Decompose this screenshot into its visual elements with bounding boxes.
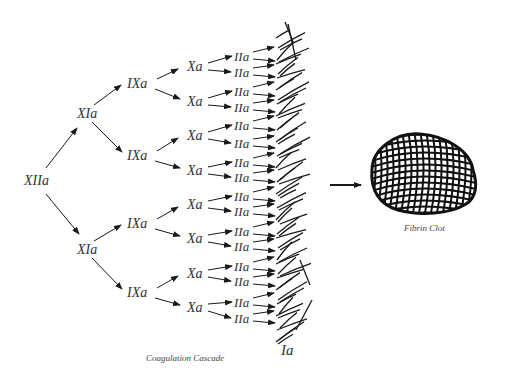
activation-arrow — [253, 249, 275, 251]
activation-arrow — [155, 89, 180, 99]
activation-arrow — [253, 136, 274, 139]
factor-xa-label: Xa — [187, 301, 203, 315]
activation-arrow — [253, 128, 275, 130]
activation-arrow — [253, 47, 274, 52]
factor-xiia-label: XIIa — [24, 174, 49, 188]
cascade-arrows — [0, 0, 506, 381]
activation-arrow — [253, 100, 274, 103]
activation-arrow — [253, 165, 275, 167]
activation-arrow — [208, 302, 232, 304]
factor-xia-label: XIa — [77, 243, 97, 257]
factor-xa-label: Xa — [187, 95, 203, 109]
factor-xa-label: Xa — [187, 60, 203, 74]
activation-arrow — [155, 161, 180, 168]
activation-arrow — [208, 162, 232, 167]
activation-arrow — [253, 234, 275, 236]
factor-iia-label: IIa — [234, 156, 249, 170]
factor-iia-label: IIa — [234, 240, 249, 254]
activation-arrow — [94, 85, 121, 105]
factor-xa-label: Xa — [187, 232, 203, 246]
activation-arrow — [253, 311, 274, 314]
activation-arrow — [253, 82, 274, 87]
activation-arrow — [208, 208, 231, 211]
activation-arrow — [208, 277, 231, 281]
activation-arrow — [208, 242, 231, 246]
fibrin-clot-icon — [368, 130, 480, 222]
factor-xa-label: Xa — [187, 164, 203, 178]
activation-arrow — [253, 274, 274, 277]
activation-arrow — [208, 56, 232, 63]
activation-arrow — [253, 180, 275, 182]
activation-arrow — [253, 269, 275, 271]
activation-arrow — [92, 258, 122, 289]
activation-arrow — [94, 225, 121, 241]
activation-arrow — [208, 174, 231, 177]
factor-iia-label: IIa — [234, 275, 249, 289]
activation-arrow — [208, 125, 232, 132]
factor-ixa-label: IXa — [127, 149, 147, 163]
factor-xia-label: XIa — [77, 107, 97, 121]
activation-arrow — [157, 69, 178, 79]
activation-arrow — [208, 196, 232, 201]
activation-arrow — [253, 116, 274, 121]
activation-arrow — [208, 231, 232, 235]
factor-iia-label: IIa — [234, 296, 249, 310]
factor-iia-label: IIa — [234, 101, 249, 115]
fibrin-clot-label: Fibrin Clot — [404, 223, 445, 233]
activation-arrow — [208, 91, 232, 98]
activation-arrow — [253, 214, 275, 216]
activation-arrow — [253, 284, 275, 286]
activation-arrow — [157, 276, 178, 288]
activation-arrow — [253, 75, 275, 77]
activation-arrow — [253, 222, 274, 227]
factor-iia-label: IIa — [234, 85, 249, 99]
activation-arrow — [208, 139, 231, 143]
activation-arrow — [253, 65, 274, 68]
factor-iia-label: IIa — [234, 119, 249, 133]
activation-arrow — [92, 122, 122, 152]
factor-iia-label: IIa — [234, 66, 249, 80]
activation-arrow — [208, 266, 232, 270]
activation-arrow — [157, 207, 178, 219]
activation-arrow — [208, 105, 231, 107]
activation-arrow — [253, 257, 274, 262]
activation-arrow — [253, 199, 275, 201]
factor-iia-label: IIa — [234, 171, 249, 185]
factor-iia-label: IIa — [234, 205, 249, 219]
factor-iia-label: IIa — [234, 190, 249, 204]
activation-arrow — [253, 170, 274, 173]
activation-arrow — [46, 194, 79, 234]
factor-ixa-label: IXa — [127, 77, 147, 91]
factor-xa-label: Xa — [187, 129, 203, 143]
factor-ixa-label: IXa — [127, 217, 147, 231]
activation-arrow — [253, 153, 274, 158]
activation-arrow — [157, 138, 178, 151]
activation-arrow — [253, 239, 274, 242]
factor-iia-label: IIa — [234, 137, 249, 151]
factor-xa-label: Xa — [187, 198, 203, 212]
activation-arrow — [208, 311, 231, 318]
activation-arrow — [253, 293, 274, 298]
factor-iia-label: IIa — [234, 260, 249, 274]
activation-arrow — [253, 146, 275, 148]
activation-arrow — [253, 204, 274, 207]
activation-arrow — [253, 321, 275, 323]
activation-arrow — [253, 110, 275, 112]
activation-arrow — [208, 70, 231, 72]
fibrin-strands — [276, 22, 312, 344]
activation-arrow — [253, 59, 275, 61]
factor-ixa-label: IXa — [127, 286, 147, 300]
coagulation-cascade-diagram: XIIaXIaXIaIXaIXaIXaIXaXaXaXaXaXaXaXaXaII… — [0, 0, 506, 381]
activation-arrow — [253, 187, 274, 192]
diagram-caption: Coagulation Cascade — [146, 353, 224, 363]
fibrin-ia-label: Ia — [281, 342, 294, 359]
factor-iia-label: IIa — [234, 312, 249, 326]
activation-arrow — [253, 94, 275, 96]
activation-arrow — [46, 128, 77, 168]
factor-iia-label: IIa — [234, 50, 249, 64]
activation-arrow — [155, 298, 180, 305]
activation-arrow — [253, 305, 275, 307]
factor-iia-label: IIa — [234, 225, 249, 239]
factor-xa-label: Xa — [187, 267, 203, 281]
activation-arrow — [155, 229, 180, 236]
